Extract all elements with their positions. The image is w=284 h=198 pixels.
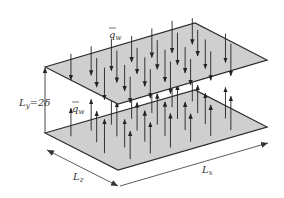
bottom-flux-label: qw (72, 103, 84, 116)
top-plate (45, 23, 267, 104)
height-label: Ly=2δ (18, 97, 50, 110)
diagram-svg: qw qw Ly=2δ Lz Lx (0, 0, 284, 198)
streamwise-label: Lx (201, 164, 213, 177)
spanwise-label: Lz (72, 171, 84, 184)
top-flux-label: qw (109, 29, 121, 42)
channel-diagram: qw qw Ly=2δ Lz Lx (0, 0, 284, 198)
